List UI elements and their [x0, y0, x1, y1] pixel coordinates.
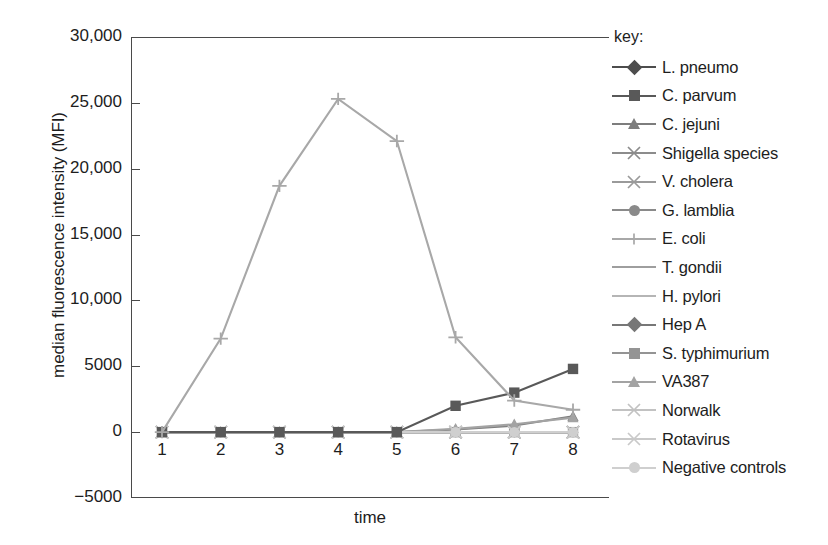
y-tick-label: 25,000: [70, 92, 122, 112]
chart-legend: key: L. pneumoC. parvumC. jejuniShigella…: [612, 28, 828, 482]
legend-item[interactable]: Negative controls: [612, 453, 828, 482]
legend-item[interactable]: G. lamblia: [612, 196, 828, 225]
y-tick-label: −5000: [74, 487, 122, 507]
legend-label: T. gondii: [656, 258, 722, 277]
data-point-square-marker: [450, 401, 460, 411]
legend-item[interactable]: VA387: [612, 368, 828, 397]
legend-none-icon: [612, 286, 656, 306]
legend-item[interactable]: C. parvum: [612, 82, 828, 111]
legend-item[interactable]: E. coli: [612, 225, 828, 254]
plot-series-layer: [131, 37, 609, 498]
legend-item[interactable]: Shigella species: [612, 139, 828, 168]
legend-label: V. cholera: [656, 172, 733, 191]
legend-items: L. pneumoC. parvumC. jejuniShigella spec…: [612, 53, 828, 482]
data-point-square-marker: [392, 427, 402, 437]
data-point-plus-marker: [566, 404, 580, 416]
legend-item[interactable]: C. jejuni: [612, 110, 828, 139]
legend-label: H. pylori: [656, 287, 721, 306]
legend-x-icon: [612, 143, 656, 163]
legend-item[interactable]: Rotavirus: [612, 425, 828, 454]
legend-label: C. parvum: [656, 86, 736, 105]
data-point-plus-marker: [214, 332, 228, 344]
legend-item[interactable]: L. pneumo: [612, 53, 828, 82]
legend-x-icon: [612, 400, 656, 420]
x-axis-title: time: [131, 508, 609, 528]
legend-label: Norwalk: [656, 401, 720, 420]
legend-label: E. coli: [656, 229, 706, 248]
legend-circle-icon: [612, 458, 656, 478]
legend-triangle-icon: [612, 114, 656, 134]
data-point-square-marker: [216, 427, 226, 437]
data-point-plus-marker: [272, 180, 286, 192]
y-tick-label: 10,000: [70, 289, 122, 309]
legend-title: key:: [612, 28, 828, 46]
data-point-square-marker: [274, 427, 284, 437]
legend-label: S. typhimurium: [656, 344, 769, 363]
legend-label: Negative controls: [656, 458, 786, 477]
y-tick-label: 15,000: [70, 224, 122, 244]
legend-item[interactable]: Norwalk: [612, 396, 828, 425]
legend-label: Hep A: [656, 315, 706, 334]
legend-none-icon: [612, 257, 656, 277]
y-tick-label: 30,000: [70, 26, 122, 46]
legend-x-icon: [612, 429, 656, 449]
legend-plus-icon: [612, 229, 656, 249]
data-point-square-marker: [333, 427, 343, 437]
legend-label: G. lamblia: [656, 201, 734, 220]
y-tick-label: 5000: [84, 355, 122, 375]
data-point-circle-marker: [509, 427, 519, 437]
legend-diamond-icon: [612, 315, 656, 335]
legend-label: Rotavirus: [656, 430, 730, 449]
legend-circle-icon: [612, 200, 656, 220]
legend-item[interactable]: T. gondii: [612, 253, 828, 282]
series-line: [162, 99, 573, 432]
series-e-coli: [155, 93, 580, 439]
y-tick-label: 20,000: [70, 158, 122, 178]
legend-diamond-icon: [612, 57, 656, 77]
legend-label: VA387: [656, 372, 709, 391]
legend-label: Shigella species: [656, 144, 778, 163]
data-point-circle-marker: [568, 427, 578, 437]
legend-item[interactable]: Hep A: [612, 310, 828, 339]
legend-square-icon: [612, 86, 656, 106]
legend-x-icon: [612, 172, 656, 192]
legend-label: L. pneumo: [656, 58, 738, 77]
data-point-square-marker: [568, 364, 578, 374]
data-point-circle-marker: [450, 427, 460, 437]
y-axis-title: median fluorescence intensity (MFI): [49, 80, 69, 410]
legend-square-icon: [612, 343, 656, 363]
legend-triangle-icon: [612, 372, 656, 392]
legend-item[interactable]: V. cholera: [612, 167, 828, 196]
legend-label: C. jejuni: [656, 115, 720, 134]
legend-item[interactable]: H. pylori: [612, 282, 828, 311]
chart-figure: median fluorescence intensity (MFI) time…: [0, 0, 828, 545]
y-tick-label: 0: [113, 421, 122, 441]
legend-item[interactable]: S. typhimurium: [612, 339, 828, 368]
